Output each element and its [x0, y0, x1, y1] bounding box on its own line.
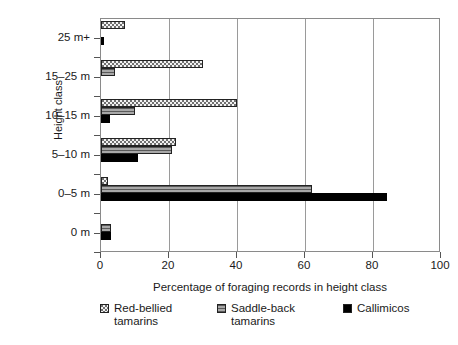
- bar-callimicos-5: [101, 232, 111, 240]
- x-tick-mark-20: [168, 252, 169, 258]
- legend-item-saddle-back-tamarins: Saddle-back tamarins: [217, 302, 295, 328]
- legend-item-red-bellied-tamarins: Red-bellied tamarins: [100, 302, 172, 328]
- gridline-80: [373, 19, 374, 251]
- x-tick-mark-80: [372, 252, 373, 258]
- x-tick-label-20: 20: [148, 259, 188, 271]
- bar-red-bellied-tamarins-3: [101, 138, 176, 146]
- legend-label-callimicos: Callimicos: [357, 302, 409, 315]
- y-tick-label-5: 0 m: [20, 226, 90, 238]
- bar-saddle-back-tamarins-1: [101, 68, 115, 76]
- bar-saddle-back-tamarins-4: [101, 185, 312, 193]
- x-tick-label-100: 100: [420, 259, 458, 271]
- legend-label-saddle-back-tamarins: Saddle-back tamarins: [231, 302, 295, 328]
- bar-callimicos-3: [101, 154, 138, 162]
- y-tick-label-2: 10–15 m: [20, 109, 90, 121]
- bar-saddle-back-tamarins-2: [101, 107, 135, 115]
- legend-label-red-bellied-tamarins: Red-bellied tamarins: [114, 302, 172, 328]
- striped-swatch: [217, 304, 226, 313]
- x-tick-mark-40: [236, 252, 237, 258]
- y-tick-label-4: 0–5 m: [20, 187, 90, 199]
- bar-callimicos-0: [101, 37, 104, 45]
- bar-saddle-back-tamarins-3: [101, 146, 172, 154]
- x-tick-label-60: 60: [284, 259, 324, 271]
- x-tick-label-40: 40: [216, 259, 256, 271]
- x-tick-mark-100: [440, 252, 441, 258]
- solid-black-swatch: [343, 304, 352, 313]
- bar-saddle-back-tamarins-5: [101, 224, 111, 232]
- bar-red-bellied-tamarins-4: [101, 177, 108, 185]
- x-tick-label-80: 80: [352, 259, 392, 271]
- stipple-swatch: [100, 304, 109, 313]
- x-axis-title: Percentage of foraging records in height…: [100, 281, 440, 293]
- y-tick-label-3: 5–10 m: [20, 148, 90, 160]
- figure: Height class 25 m+15–25 m10–15 m5–10 m0–…: [0, 0, 458, 345]
- bar-red-bellied-tamarins-0: [101, 21, 125, 29]
- bar-red-bellied-tamarins-1: [101, 60, 203, 68]
- legend-item-callimicos: Callimicos: [343, 302, 409, 315]
- gridline-60: [305, 19, 306, 251]
- gridline-20: [169, 19, 170, 251]
- y-tick-label-0: 25 m+: [20, 31, 90, 43]
- gridline-40: [237, 19, 238, 251]
- x-tick-mark-60: [304, 252, 305, 258]
- bar-red-bellied-tamarins-2: [101, 99, 237, 107]
- legend: Red-bellied tamarinsSaddle-back tamarins…: [100, 302, 445, 338]
- bar-callimicos-4: [101, 193, 387, 201]
- x-tick-label-0: 0: [80, 259, 120, 271]
- plot-area: [100, 18, 440, 252]
- y-tick-label-1: 15–25 m: [20, 70, 90, 82]
- bar-callimicos-2: [101, 115, 110, 123]
- x-tick-mark-0: [100, 252, 101, 258]
